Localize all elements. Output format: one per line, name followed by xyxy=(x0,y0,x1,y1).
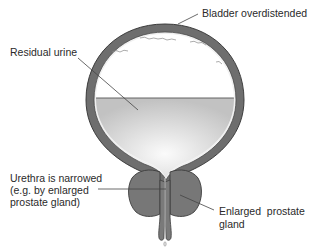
diagram-canvas: Bladder overdistended Residual urine Ure… xyxy=(0,0,317,251)
label-residual-urine: Residual urine xyxy=(10,46,77,59)
label-prostate-line1: Enlarged prostate xyxy=(219,205,305,218)
label-bladder-overdistended: Bladder overdistended xyxy=(202,7,307,20)
prostate-lobe-right xyxy=(170,170,201,216)
label-urethra-line2: (e.g. by enlarged xyxy=(10,184,89,197)
label-prostate-line2: gland xyxy=(219,218,245,231)
label-urethra-line3: prostate gland) xyxy=(10,196,80,209)
prostate-lobe-left xyxy=(129,170,160,216)
leader-bladder xyxy=(178,14,198,24)
urine-drip xyxy=(164,242,167,246)
label-urethra-line1: Urethra is narrowed xyxy=(10,172,102,185)
